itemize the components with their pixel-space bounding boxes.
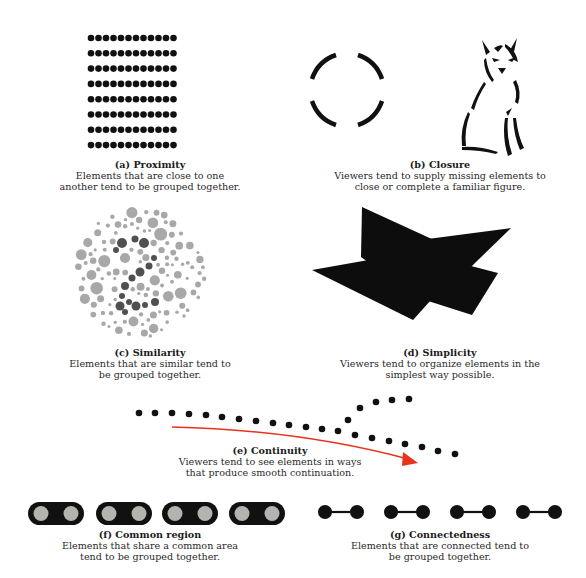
panel-letter: g — [394, 529, 401, 540]
connectedness-dumbbells — [0, 0, 586, 578]
panel-description-line: Elements that are connected tend to — [330, 540, 550, 551]
caption-connectedness: (g) Connectedness Elements that are conn… — [330, 529, 550, 562]
panel-title: Connectedness — [409, 529, 490, 540]
panel-description-line: be grouped together. — [330, 551, 550, 562]
